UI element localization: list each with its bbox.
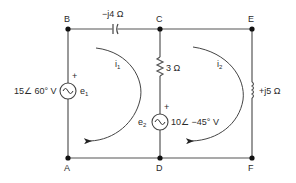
node-f-dot: [249, 155, 254, 160]
node-e-label: E: [248, 14, 254, 24]
e2-polarity-plus: +: [164, 102, 169, 112]
e1-polarity-plus: +: [72, 71, 77, 81]
i2-label: i2: [217, 59, 223, 70]
inductor-label: +j5 Ω: [259, 86, 281, 96]
right-wire: [252, 29, 254, 158]
node-c-label: C: [156, 14, 163, 24]
node-b-label: B: [64, 14, 70, 24]
middle-wire: [157, 29, 163, 158]
e2-value-label: 10∠ −45° V: [171, 117, 219, 127]
capacitor: [113, 24, 118, 34]
e1-value-label: 15∠ 60° V: [14, 86, 57, 96]
node-c-dot: [157, 26, 162, 31]
e1-name-label: e1: [80, 86, 89, 97]
circuit-diagram: −j4 Ω + 15∠ 60° V e1 3 Ω + e2 10∠ −45° V…: [0, 0, 296, 183]
voltage-source-e2: [152, 114, 168, 130]
capacitor-label: −j4 Ω: [102, 9, 124, 19]
node-d-dot: [157, 155, 162, 160]
node-b-dot: [65, 26, 70, 31]
voltage-source-e1: [60, 83, 76, 99]
resistor-label: 3 Ω: [166, 63, 181, 73]
node-a-dot: [65, 155, 70, 160]
node-d-label: D: [156, 163, 163, 173]
node-a-label: A: [64, 163, 70, 173]
e2-name-label: e2: [138, 117, 147, 128]
node-f-label: F: [248, 163, 254, 173]
i1-label: i1: [115, 59, 121, 70]
node-e-dot: [249, 26, 254, 31]
